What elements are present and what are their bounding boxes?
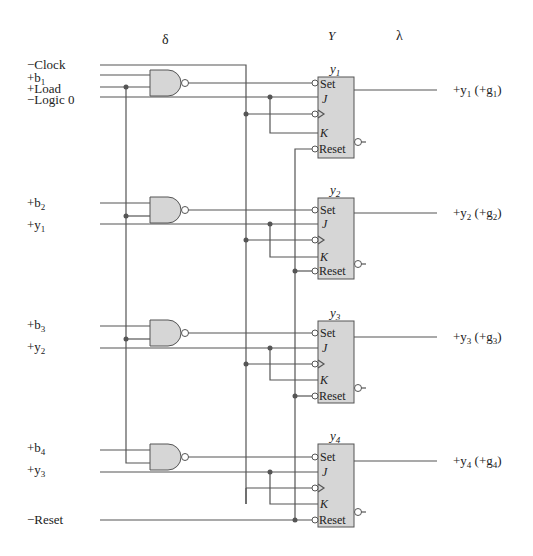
junction-j-4 bbox=[268, 470, 273, 475]
junction-load-1 bbox=[124, 85, 129, 90]
clk-bubble-3 bbox=[312, 361, 318, 367]
pin-k-1: K bbox=[319, 126, 329, 140]
shift-register-diagram: δ Y λ −Clock +b1 +Load −Logic 0 +b2 +y1 … bbox=[0, 0, 533, 556]
pin-k-4: K bbox=[319, 497, 329, 511]
pin-k-3: K bbox=[319, 373, 329, 387]
nand-bubble-3 bbox=[182, 330, 189, 337]
set-bubble-3 bbox=[312, 330, 318, 336]
nand-gate-3 bbox=[150, 320, 181, 346]
clock-wire bbox=[100, 65, 246, 504]
ff-title-4: y4 bbox=[328, 428, 341, 445]
set-bubble-1 bbox=[312, 80, 318, 86]
ff-title-1: y1 bbox=[328, 61, 340, 78]
junction-reset-2 bbox=[293, 269, 298, 274]
b3-input-label: +b3 bbox=[27, 317, 46, 334]
stage-4: y4 Set J K Reset +y4 (+g4) bbox=[100, 428, 502, 527]
clk-bubble-2 bbox=[312, 237, 318, 243]
b4-input-label: +b4 bbox=[27, 440, 46, 457]
set-bubble-2 bbox=[312, 207, 318, 213]
pin-reset-3: Reset bbox=[319, 389, 346, 403]
junction-clk-3 bbox=[244, 362, 249, 367]
junction-reset-4 bbox=[293, 518, 298, 523]
qbar-bubble-3 bbox=[355, 385, 362, 392]
pin-set-3: Set bbox=[320, 326, 336, 340]
junction-load-3 bbox=[124, 337, 129, 342]
reset-bubble-3 bbox=[312, 393, 318, 399]
reset-bubble-1 bbox=[312, 146, 318, 152]
load-wire bbox=[100, 87, 150, 463]
stage-3: y3 Set J K Reset +y3 (+g3) bbox=[100, 305, 502, 403]
stage-2: y2 Set J K Reset +y2 (+g2) bbox=[100, 182, 502, 279]
y3-input-label: +y3 bbox=[27, 462, 46, 479]
stage-1: y1 Set J K Reset +y1 (+g1) bbox=[100, 61, 502, 158]
clk-bubble-4 bbox=[312, 485, 318, 491]
pin-set-2: Set bbox=[320, 203, 336, 217]
Y-label: Y bbox=[328, 28, 337, 43]
output-label-3: +y3 (+g3) bbox=[453, 329, 502, 346]
pin-j-1: J bbox=[322, 92, 328, 106]
output-label-4: +y4 (+g4) bbox=[453, 453, 502, 470]
qbar-bubble-4 bbox=[355, 509, 362, 516]
output-label-1: +y1 (+g1) bbox=[453, 82, 502, 99]
k-wire-1 bbox=[270, 97, 318, 133]
junction-clk-1 bbox=[244, 112, 249, 117]
ff-title-2: y2 bbox=[328, 182, 341, 199]
junction-reset-3 bbox=[293, 394, 298, 399]
junction-j-3 bbox=[268, 346, 273, 351]
pin-reset-4: Reset bbox=[319, 513, 346, 527]
delta-label: δ bbox=[162, 32, 169, 47]
reset-input-label: −Reset bbox=[27, 512, 64, 527]
pin-reset-1: Reset bbox=[319, 142, 346, 156]
pin-set-4: Set bbox=[320, 450, 336, 464]
y1-input-label: +y1 bbox=[27, 217, 45, 234]
reset-bubble-2 bbox=[312, 268, 318, 274]
y2-input-label: +y2 bbox=[27, 339, 45, 356]
junction-load-2 bbox=[124, 214, 129, 219]
nand-gate-1 bbox=[150, 70, 181, 96]
nand-bubble-1 bbox=[182, 80, 189, 87]
b2-input-label: +b2 bbox=[27, 195, 45, 212]
nand-gate-4 bbox=[150, 444, 181, 470]
reset-bubble-4 bbox=[312, 517, 318, 523]
nand-gate-2 bbox=[150, 197, 181, 223]
pin-j-2: J bbox=[322, 217, 328, 231]
junction-j-1 bbox=[268, 95, 273, 100]
pin-j-4: J bbox=[322, 465, 328, 479]
logic0-input-label: −Logic 0 bbox=[27, 92, 74, 107]
nand-bubble-4 bbox=[182, 454, 189, 461]
reset-wire bbox=[100, 149, 313, 520]
nand-bubble-2 bbox=[182, 207, 189, 214]
pin-k-2: K bbox=[319, 250, 329, 264]
junction-j-2 bbox=[268, 222, 273, 227]
lambda-label: λ bbox=[396, 28, 403, 43]
output-label-2: +y2 (+g2) bbox=[453, 205, 502, 222]
qbar-bubble-1 bbox=[355, 139, 362, 146]
pin-reset-2: Reset bbox=[319, 264, 346, 278]
set-bubble-4 bbox=[312, 454, 318, 460]
junction-clk-2 bbox=[244, 238, 249, 243]
ff-title-3: y3 bbox=[328, 305, 341, 322]
qbar-bubble-2 bbox=[355, 261, 362, 268]
pin-j-3: J bbox=[322, 341, 328, 355]
pin-set-1: Set bbox=[320, 77, 336, 91]
clk-bubble-1 bbox=[312, 111, 318, 117]
